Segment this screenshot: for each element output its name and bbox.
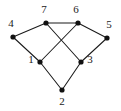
graph-figure: 1234567 [0,0,121,111]
graph-edge [46,23,81,62]
vertex-label-2: 2 [59,95,65,107]
graph-edge [78,23,107,38]
graph-vertex-7 [43,20,48,25]
vertex-label-7: 7 [41,3,47,15]
graph-edge [13,37,40,62]
vertex-label-5: 5 [106,18,112,30]
vertex-label-6: 6 [73,3,79,15]
graph-edge [13,23,46,37]
graph-vertex-3 [78,59,83,64]
vertex-label-4: 4 [8,17,14,29]
graph-vertex-2 [59,87,64,92]
graph-canvas: 1234567 [0,0,121,111]
vertex-label-1: 1 [28,53,34,65]
graph-edge [81,38,107,62]
graph-vertex-6 [75,20,80,25]
graph-vertex-5 [104,35,109,40]
graph-vertex-1 [37,59,42,64]
edge-layer [13,23,107,90]
graph-edge [62,62,81,90]
vertex-label-3: 3 [87,53,93,65]
graph-vertex-4 [10,34,15,39]
graph-edge [40,23,78,62]
graph-edge [40,62,62,90]
